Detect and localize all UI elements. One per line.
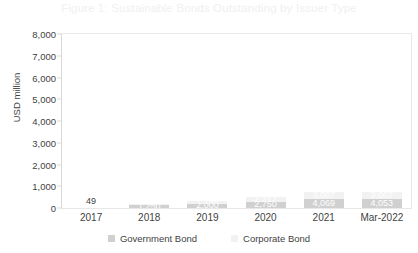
y-tick-label: 5,000 [10, 94, 56, 105]
chart-title: Figure 1: Sustainable Bonds Outstanding … [0, 2, 418, 14]
y-tick-label: 8,000 [10, 29, 56, 40]
y-tick-label: 7,000 [10, 50, 56, 61]
bar-segment-government[interactable]: 2,000 [187, 204, 227, 209]
x-tick-label: 2018 [120, 212, 178, 223]
x-axis-ticks: 20172018201920202021Mar-2022 [62, 212, 411, 223]
bar-stack[interactable]: 2,2172,750 [246, 190, 286, 208]
x-tick-label: Mar-2022 [353, 212, 411, 223]
bar-stack[interactable]: 3,0074,069 [304, 190, 344, 208]
bar-group[interactable]: 6531,250 [120, 34, 178, 208]
bar-segment-government[interactable]: 2,750 [246, 202, 286, 208]
bar-stack[interactable]: 3,0074,053 [362, 190, 402, 208]
bar-segment-government[interactable]: 4,053 [362, 199, 402, 208]
plot-area: 496531,2501,1552,0002,2172,7503,0074,069… [62, 34, 411, 208]
bar-group[interactable]: 49 [62, 34, 120, 208]
chart-legend: Government BondCorporate Bond [0, 233, 418, 244]
legend-item[interactable]: Corporate Bond [231, 233, 310, 244]
legend-swatch-icon [108, 235, 115, 242]
legend-item[interactable]: Government Bond [108, 233, 197, 244]
bar-value-label: 49 [86, 197, 96, 206]
bar-value-label: 2,000 [196, 204, 219, 209]
bar-value-label: 4,053 [371, 199, 394, 208]
legend-label: Corporate Bond [243, 233, 310, 244]
bar-segment-government[interactable]: 4,069 [304, 199, 344, 208]
bar-segment-corporate[interactable]: 3,007 [362, 192, 402, 199]
bar-stack[interactable]: 6531,250 [129, 190, 169, 208]
bar-value-label: 3,007 [312, 192, 335, 199]
bar-value-label: 4,069 [312, 199, 335, 208]
bar-stack[interactable]: 1,1552,000 [187, 190, 227, 208]
bar-value-label: 2,750 [254, 202, 277, 208]
y-tick-label: 3,000 [10, 137, 56, 148]
x-tick-label: 2017 [62, 212, 120, 223]
y-tick-label: 1,000 [10, 181, 56, 192]
bar-value-label: 1,250 [138, 205, 161, 208]
legend-label: Government Bond [120, 233, 197, 244]
y-tick-label: 4,000 [10, 116, 56, 127]
bar-group[interactable]: 1,1552,000 [178, 34, 236, 208]
bar-segment-corporate[interactable]: 3,007 [304, 192, 344, 199]
x-tick-label: 2020 [237, 212, 295, 223]
chart-figure: Figure 1: Sustainable Bonds Outstanding … [0, 0, 418, 253]
y-tick-label: 6,000 [10, 72, 56, 83]
bar-group[interactable]: 3,0074,069 [295, 34, 353, 208]
bar-segment-government[interactable]: 1,250 [129, 205, 169, 208]
x-tick-label: 2019 [178, 212, 236, 223]
x-tick-label: 2021 [295, 212, 353, 223]
legend-swatch-icon [231, 235, 238, 242]
bar-value-label: 3,007 [371, 192, 394, 199]
y-tick-label: 2,000 [10, 159, 56, 170]
y-tick-label: 0 [10, 203, 56, 214]
bar-group[interactable]: 2,2172,750 [237, 34, 295, 208]
bar-group[interactable]: 3,0074,053 [353, 34, 411, 208]
